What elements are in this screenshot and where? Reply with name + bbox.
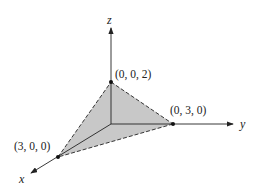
point-x-intercept	[56, 155, 60, 159]
point-y-intercept	[171, 122, 175, 126]
label-z-intercept: (0, 0, 2)	[115, 68, 152, 81]
label-y-intercept: (0, 3, 0)	[170, 104, 207, 117]
diagram-canvas: z y x (0, 0, 2) (0, 3, 0) (3, 0, 0)	[0, 0, 257, 189]
point-z-intercept	[109, 80, 113, 84]
x-axis-label: x	[18, 172, 25, 186]
label-x-intercept: (3, 0, 0)	[14, 140, 51, 153]
z-axis-label: z	[106, 13, 112, 27]
y-axis-label: y	[239, 117, 246, 131]
